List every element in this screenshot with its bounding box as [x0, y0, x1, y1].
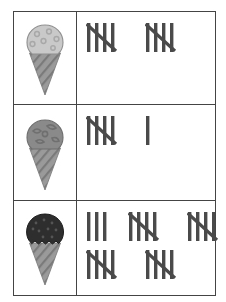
- tally-line: [86, 116, 211, 145]
- tally-group-of-five: [145, 250, 184, 279]
- tally-singles-group: [86, 212, 108, 241]
- tally-cell-row-1: [77, 12, 216, 105]
- table-row: [14, 201, 216, 296]
- tally-line: [86, 250, 211, 279]
- tally-single-mark: [145, 116, 151, 145]
- ice-cream-cell-row-1: [14, 12, 77, 105]
- tally-line: [86, 212, 211, 241]
- tally-cell-row-2: [77, 105, 216, 201]
- tally-group-of-five: [86, 116, 125, 145]
- tally-marks-row-1: [86, 23, 211, 52]
- tally-marks-row-2: [86, 116, 211, 145]
- tally-marks-row-3: [86, 212, 211, 279]
- ice-cream-cell-row-2: [14, 105, 77, 201]
- worksheet-page: [0, 0, 226, 302]
- tally-group-of-five: [187, 212, 226, 241]
- ice-cream-cone-medium-gray-icon: [22, 115, 68, 191]
- tally-group-of-five: [128, 212, 167, 241]
- table-row: [14, 105, 216, 201]
- tally-group-of-five: [86, 250, 125, 279]
- tally-group-of-five: [145, 23, 184, 52]
- tally-chart-table: [13, 11, 216, 296]
- ice-cream-cone-vanilla-sprinkles-icon: [22, 20, 68, 96]
- ice-cream-cone-chocolate-icon: [22, 210, 68, 286]
- table-row: [14, 12, 216, 105]
- tally-line: [86, 23, 211, 52]
- tally-group-of-five: [86, 23, 125, 52]
- tally-cell-row-3: [77, 201, 216, 296]
- ice-cream-cell-row-3: [14, 201, 77, 296]
